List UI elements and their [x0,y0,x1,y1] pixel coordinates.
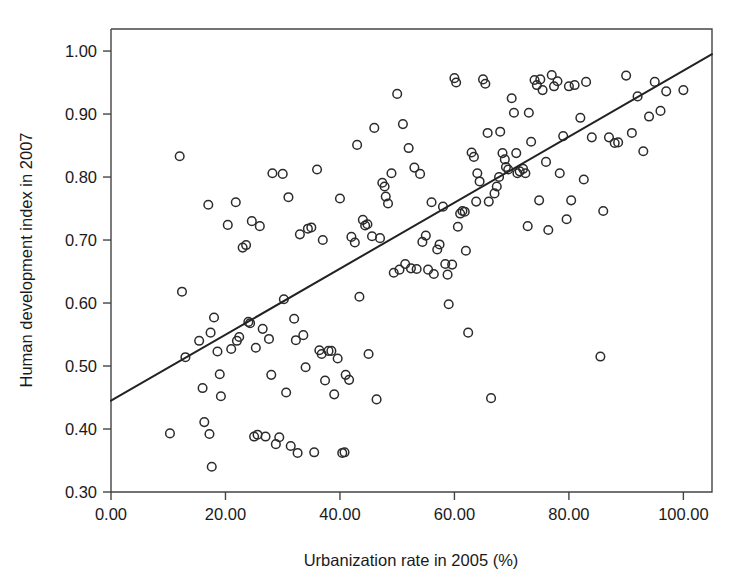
x-tick-label: 80.00 [548,505,589,523]
y-tick-label: 0.30 [65,483,97,501]
y-tick-label: 0.80 [65,168,97,186]
y-tick-label: 0.50 [65,357,97,375]
chart-canvas: 0.300.400.500.600.700.800.901.00 0.0020.… [0,0,746,584]
y-tick-label: 0.90 [65,105,97,123]
x-tick-label: 100.00 [658,505,708,523]
x-tick-label: 0.00 [95,505,127,523]
y-tick-label: 0.70 [65,231,97,249]
x-tick-label: 20.00 [205,505,246,523]
x-tick-label: 40.00 [319,505,360,523]
y-tick-label: 1.00 [65,42,97,60]
chart-background [0,0,746,584]
y-axis-title: Human development index in 2007 [17,132,35,387]
x-axis-title: Urbanization rate in 2005 (%) [304,551,519,569]
scatter-plot-figure: 0.300.400.500.600.700.800.901.00 0.0020.… [0,0,746,584]
x-tick-label: 60.00 [434,505,475,523]
y-tick-label: 0.40 [65,420,97,438]
y-tick-label: 0.60 [65,294,97,312]
